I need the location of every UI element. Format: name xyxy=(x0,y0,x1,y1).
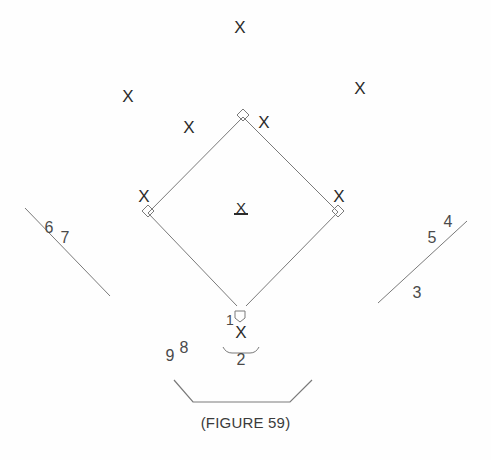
shortstop-x-icon: X xyxy=(183,119,194,136)
backstop-line xyxy=(174,380,312,402)
third-baseman-x-icon: X xyxy=(138,188,149,205)
right-foul-line xyxy=(378,221,467,303)
position-number-2-catcher: 2 xyxy=(237,352,246,368)
first-baseman-x-icon: X xyxy=(333,188,344,205)
figure-caption: (FIGURE 59) xyxy=(0,414,491,431)
position-number-4-second-base: 4 xyxy=(444,214,453,230)
baseball-field-diagram: X X X X X X X X X 1 2 3 4 5 6 7 8 9 (FIG… xyxy=(0,0,491,460)
position-number-6-shortstop: 6 xyxy=(45,220,54,236)
catcher-x-icon: X xyxy=(235,324,246,341)
position-number-1-pitcher: 1 xyxy=(226,313,234,327)
third-base-marker xyxy=(142,205,154,217)
second-baseman-x-icon: X xyxy=(258,114,269,131)
position-number-5-third-base: 5 xyxy=(428,230,437,246)
first-base-marker xyxy=(332,205,344,217)
left-fielder-x-icon: X xyxy=(122,88,133,105)
position-number-7-left-field: 7 xyxy=(61,230,70,246)
second-base-marker xyxy=(237,109,249,121)
center-fielder-x-icon: X xyxy=(234,19,245,36)
pitcher-x-icon: X xyxy=(236,200,246,215)
left-foul-line xyxy=(25,208,110,296)
field-graphics xyxy=(0,0,491,460)
position-number-9-right-field: 9 xyxy=(166,348,175,364)
position-number-3-first-base: 3 xyxy=(413,285,422,301)
right-fielder-x-icon: X xyxy=(354,80,365,97)
base-markers xyxy=(142,109,344,322)
position-number-8-center-field: 8 xyxy=(180,340,189,356)
home-plate-marker xyxy=(235,311,245,322)
